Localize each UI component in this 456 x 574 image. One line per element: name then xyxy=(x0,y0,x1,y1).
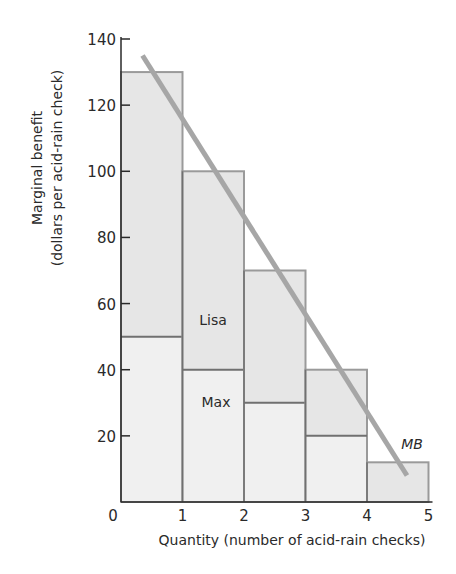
lisa-bar-segment xyxy=(367,462,429,502)
y-tick-label: 20 xyxy=(97,428,116,446)
max-bar-segment xyxy=(244,403,306,502)
x-tick-label: 0 xyxy=(108,507,118,525)
mb-curve-label: MB xyxy=(401,436,423,452)
lisa-bar-segment xyxy=(244,271,306,403)
x-tick-label: 4 xyxy=(362,507,372,525)
y-tick-label: 80 xyxy=(97,229,116,247)
lisa-label: Lisa xyxy=(199,312,227,328)
y-axis-title-line1: Marginal benefit xyxy=(29,110,45,225)
y-tick-label: 100 xyxy=(87,163,116,181)
x-tick-label: 3 xyxy=(301,507,311,525)
max-label: Max xyxy=(202,394,231,410)
x-axis-title: Quantity (number of acid-rain checks) xyxy=(159,532,426,548)
y-axis-title-line2: (dollars per acid-rain check) xyxy=(49,70,65,267)
max-bar-segment xyxy=(183,370,245,502)
y-tick-label: 40 xyxy=(97,362,116,380)
y-tick-label: 120 xyxy=(87,97,116,115)
lisa-bar-segment xyxy=(306,370,368,436)
lisa-bar-segment xyxy=(121,72,183,337)
x-tick-label: 2 xyxy=(239,507,249,525)
marginal-benefit-chart: 20406080100120140012345 Lisa Max MB Quan… xyxy=(0,0,456,574)
y-tick-label: 60 xyxy=(97,296,116,314)
max-bar-segment xyxy=(306,436,368,502)
max-bar-segment xyxy=(121,337,183,502)
y-tick-label: 140 xyxy=(87,31,116,49)
x-tick-label: 1 xyxy=(178,507,188,525)
x-tick-label: 5 xyxy=(424,507,434,525)
